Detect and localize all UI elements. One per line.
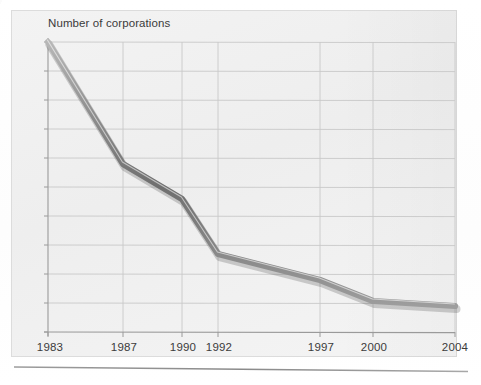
- x-axis-tick-labels: 1983 1987 1990 1992 1997 2000 2004: [0, 341, 481, 361]
- x-tick-label: 1997: [308, 341, 334, 353]
- x-tick-label: 2004: [442, 341, 468, 353]
- data-line-shadow: [50, 45, 457, 309]
- x-tick-label: 2000: [361, 341, 387, 353]
- x-tick-label: 1992: [206, 341, 232, 353]
- x-tick-label: 1990: [170, 341, 196, 353]
- x-tick-label: 1987: [111, 341, 137, 353]
- y-axis-title: Number of corporations: [48, 17, 170, 29]
- footer-rule: [14, 367, 468, 372]
- y-axis-ticks: [44, 42, 48, 332]
- line-chart-plot: [0, 0, 481, 385]
- y-axis-tick-labels: 50 45 40 35 30 25 20 15 10 5 0: [0, 0, 42, 385]
- x-tick-label: 1983: [37, 341, 63, 353]
